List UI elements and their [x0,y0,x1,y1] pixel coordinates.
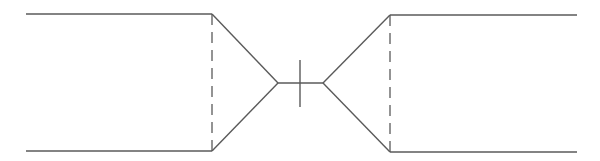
right-taper-bottom [323,83,390,152]
left-taper-bottom [212,83,278,151]
right-taper-top [323,15,390,83]
taper-junction-diagram [0,0,600,161]
left-taper-top [212,14,278,83]
